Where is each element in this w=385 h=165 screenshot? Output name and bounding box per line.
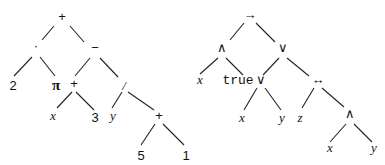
tree-edge [75,58,90,76]
tree-edge [230,23,244,40]
tree-node: true [222,73,253,88]
tree-canvas: +·−2π+/x3y+51→∧∨xtrue∨↔xyz∧xy [0,0,385,165]
tree-node: ∨ [278,40,288,55]
tree-node: 3 [91,110,98,125]
tree-edge [42,26,54,40]
tree-edge [141,124,155,145]
tree-node: x [326,140,333,155]
tree-node: z [296,110,302,125]
tree-edge [128,92,154,110]
tree-edge [100,58,118,77]
logic-formula-tree: →∧∨xtrue∨↔xyz∧xy [196,7,377,155]
tree-node: ∧ [345,106,355,121]
tree-node: 2 [9,78,16,93]
tree-edge [57,92,72,108]
tree-node: ∨ [256,72,266,87]
tree-node: ↔ [312,72,325,87]
arithmetic-expression-tree: +·−2π+/x3y+51 [9,9,189,163]
tree-node: ∧ [217,40,227,55]
tree-node: · [34,38,38,53]
tree-edge [70,26,84,42]
tree-node: y [369,140,377,155]
tree-node: → [244,7,257,22]
tree-node: x [196,72,203,87]
tree-edge [287,58,309,76]
tree-edge [256,23,275,42]
tree-edge [163,124,184,145]
tree-node: + [70,76,78,91]
tree-node: y [108,108,116,123]
tree-edge [322,88,344,107]
tree-node: x [238,110,245,125]
tree-node: + [58,9,66,24]
tree-edge [354,124,372,142]
tree-edge [244,88,257,110]
tree-node: + [155,108,163,123]
tree-node: π [52,77,61,93]
tree-node: x [49,108,56,123]
tree-node: 5 [137,148,144,163]
tree-node: y [277,110,285,125]
tree-edge [112,92,122,108]
tree-edge [265,88,281,110]
tree-node: − [91,40,99,55]
tree-node: / [121,78,127,93]
tree-edge [14,57,32,76]
expression-trees-diagram: +·−2π+/x3y+51→∧∨xtrue∨↔xyz∧xy [0,0,385,165]
tree-edge [302,88,314,108]
tree-edge [40,57,55,76]
tree-edge [76,92,94,110]
tree-node: 1 [182,148,189,163]
